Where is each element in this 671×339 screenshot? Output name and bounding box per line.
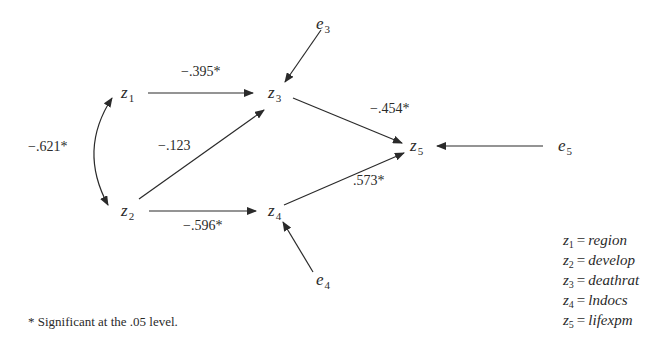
node-sub: 3	[276, 92, 282, 104]
legend-sub: 2	[569, 259, 574, 270]
legend-name: lifexpm	[588, 312, 632, 328]
node-var: z	[121, 83, 128, 102]
node-z5: z5	[410, 137, 423, 154]
legend-sub: 1	[569, 239, 574, 250]
path-e4-z4	[283, 222, 313, 272]
node-sub: 3	[325, 23, 331, 35]
variable-legend: z1=region z2=develop z3=deathrat z4=lndo…	[563, 230, 639, 330]
node-var: e	[558, 136, 566, 155]
legend-eq: =	[577, 272, 585, 288]
legend-sub: 5	[569, 319, 574, 330]
coef-z2-z4: −.596*	[183, 219, 222, 233]
node-e3: e3	[316, 15, 330, 32]
legend-item-z2: z2=develop	[563, 250, 639, 270]
node-var: e	[316, 14, 324, 33]
legend-var: z	[563, 252, 569, 268]
node-sub: 4	[276, 210, 282, 222]
node-e4: e4	[316, 271, 330, 288]
coef-z2-z3: −.123	[158, 139, 190, 153]
node-var: z	[268, 83, 275, 102]
node-sub: 4	[325, 279, 331, 291]
legend-eq: =	[577, 312, 585, 328]
node-z3: z3	[268, 84, 281, 101]
coef-z4-z5: .573*	[353, 174, 385, 188]
legend-name: deathrat	[588, 272, 639, 288]
node-z4: z4	[268, 202, 281, 219]
node-z1: z1	[121, 84, 134, 101]
correlation-z1-z2	[94, 98, 112, 205]
legend-item-z4: z4=lndocs	[563, 290, 639, 310]
legend-eq: =	[577, 292, 585, 308]
legend-item-z5: z5=lifexpm	[563, 310, 639, 330]
node-z2: z2	[121, 202, 134, 219]
legend-item-z3: z3=deathrat	[563, 270, 639, 290]
node-sub: 1	[129, 92, 135, 104]
legend-var: z	[563, 292, 569, 308]
path-z2-z3	[139, 110, 264, 199]
path-diagram: z1 z2 z3 z4 z5 e3 e4 e5 −.395* −.123 −.5…	[0, 0, 671, 339]
node-e5: e5	[558, 137, 572, 154]
legend-name: lndocs	[588, 292, 627, 308]
legend-var: z	[563, 232, 569, 248]
node-var: e	[316, 270, 324, 289]
legend-name: region	[588, 232, 627, 248]
legend-eq: =	[577, 232, 585, 248]
coef-z1-z3: −.395*	[181, 65, 220, 79]
legend-var: z	[563, 312, 569, 328]
legend-sub: 3	[569, 279, 574, 290]
significance-footnote: * Significant at the .05 level.	[28, 314, 178, 330]
node-var: z	[121, 201, 128, 220]
node-sub: 5	[567, 145, 573, 157]
coef-z3-z5: −.454*	[370, 102, 409, 116]
legend-item-z1: z1=region	[563, 230, 639, 250]
legend-sub: 4	[569, 299, 574, 310]
node-sub: 5	[418, 145, 424, 157]
path-e3-z3	[285, 30, 321, 82]
legend-name: develop	[588, 252, 635, 268]
coef-z1-z2: −.621*	[28, 140, 67, 154]
path-z4-z5	[284, 153, 404, 205]
node-var: z	[410, 136, 417, 155]
legend-eq: =	[577, 252, 585, 268]
legend-var: z	[563, 272, 569, 288]
node-var: z	[268, 201, 275, 220]
node-sub: 2	[129, 210, 135, 222]
